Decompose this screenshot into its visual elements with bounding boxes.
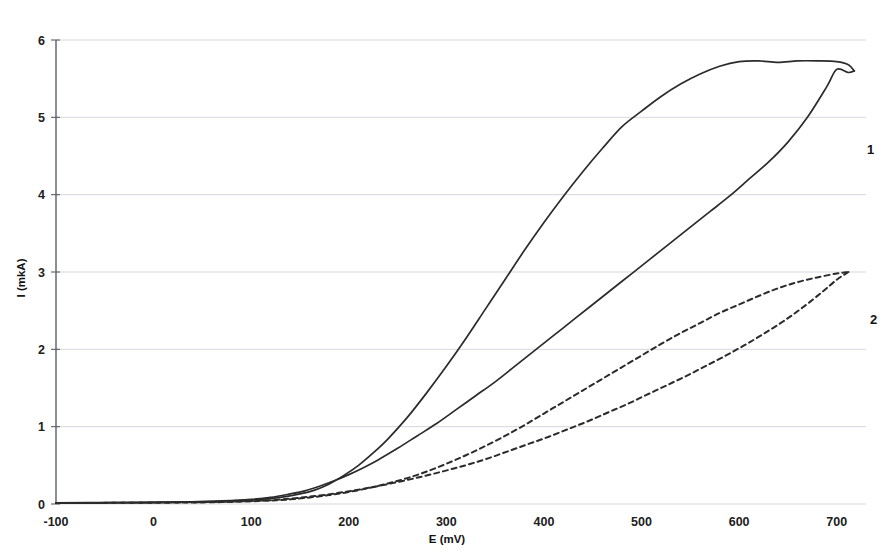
y-tick-label-0: 0 — [38, 498, 45, 512]
x-tick-label-600: 600 — [729, 515, 750, 529]
chart-canvas: -1000100200300400500600700 0123456 12 E … — [0, 0, 894, 560]
curve-1-label: 1 — [867, 142, 874, 157]
x-tick-label-100: 100 — [241, 515, 262, 529]
x-tick-label-500: 500 — [631, 515, 652, 529]
x-axis-title: E (mV) — [429, 533, 466, 545]
chart-background — [0, 0, 894, 560]
y-axis-title: I (mkA) — [15, 258, 27, 297]
x-tick-label-200: 200 — [338, 515, 359, 529]
y-tick-label-5: 5 — [38, 111, 45, 125]
y-tick-label-2: 2 — [38, 343, 45, 357]
y-tick-label-1: 1 — [38, 420, 45, 434]
x-tick-label--100: -100 — [43, 515, 68, 529]
y-tick-label-4: 4 — [38, 188, 45, 202]
x-tick-label-300: 300 — [436, 515, 457, 529]
curve-2-label: 2 — [870, 312, 877, 327]
x-tick-label-400: 400 — [534, 515, 555, 529]
x-tick-label-0: 0 — [150, 515, 157, 529]
x-tick-label-700: 700 — [826, 515, 847, 529]
y-tick-label-3: 3 — [38, 266, 45, 280]
chart-figure: -1000100200300400500600700 0123456 12 E … — [0, 0, 894, 560]
y-tick-label-6: 6 — [38, 34, 45, 48]
